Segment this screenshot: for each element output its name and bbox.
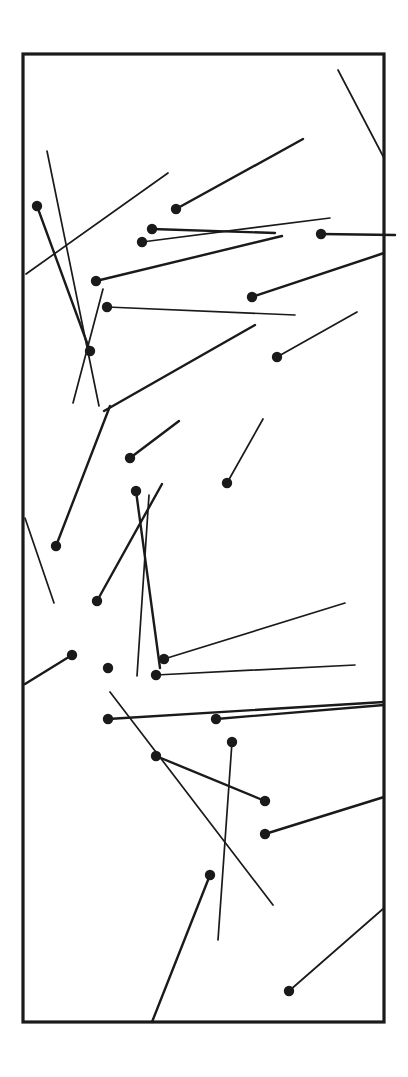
endpoint-dot xyxy=(103,714,113,724)
figure-background xyxy=(0,0,408,1077)
endpoint-dot xyxy=(51,541,61,551)
endpoint-dot xyxy=(147,224,157,234)
endpoint-dot xyxy=(247,292,257,302)
endpoint-dot xyxy=(272,352,282,362)
endpoint-dot xyxy=(211,714,221,724)
figure-canvas xyxy=(0,0,408,1077)
endpoint-dot xyxy=(205,870,215,880)
endpoint-dot xyxy=(284,986,294,996)
endpoint-dot xyxy=(102,302,112,312)
endpoint-dot xyxy=(92,596,102,606)
endpoint-dot xyxy=(316,229,326,239)
endpoint-dot xyxy=(67,650,77,660)
endpoint-dot xyxy=(151,670,161,680)
endpoint-dot xyxy=(222,478,232,488)
endpoint-dot xyxy=(227,737,237,747)
line-segment xyxy=(321,234,395,235)
endpoint-dot xyxy=(131,486,141,496)
endpoint-dot xyxy=(137,237,147,247)
endpoint-dot xyxy=(171,204,181,214)
endpoint-dot xyxy=(125,453,135,463)
endpoint-dot xyxy=(85,346,95,356)
endpoint-dot xyxy=(260,796,270,806)
endpoint-dot xyxy=(151,751,161,761)
line-segment-diagram-svg xyxy=(0,0,408,1077)
endpoint-dot xyxy=(91,276,101,286)
endpoint-dot xyxy=(32,201,42,211)
endpoint-dot xyxy=(159,654,169,664)
endpoint-dot xyxy=(103,663,113,673)
endpoint-dot xyxy=(260,829,270,839)
